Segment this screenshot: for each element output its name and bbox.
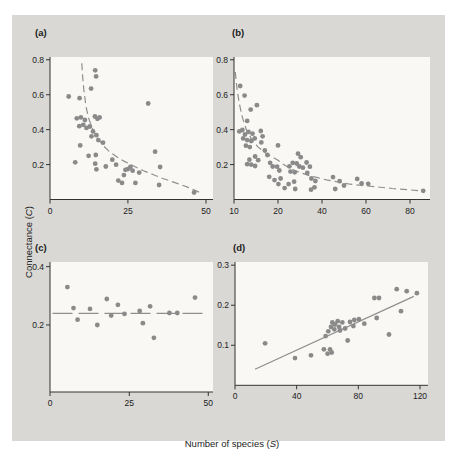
data-point — [338, 328, 343, 333]
data-point — [366, 181, 371, 186]
y-tick-label: 0.2 — [32, 319, 44, 329]
data-point — [193, 295, 198, 300]
data-point — [329, 350, 334, 355]
data-point — [75, 317, 80, 322]
data-point — [343, 326, 348, 331]
data-point — [146, 101, 151, 106]
panel-label-b: (b) — [232, 27, 244, 38]
data-point — [93, 161, 98, 166]
data-point — [359, 181, 364, 186]
data-point — [277, 168, 282, 173]
x-tick-label: 40 — [292, 391, 302, 401]
data-point — [253, 154, 258, 159]
data-point — [356, 317, 361, 322]
data-point — [77, 96, 82, 101]
data-point — [252, 136, 257, 141]
data-point — [247, 145, 252, 150]
data-point — [323, 334, 328, 339]
data-point — [372, 296, 377, 301]
data-point — [293, 187, 298, 192]
data-point — [309, 353, 314, 358]
data-point — [137, 308, 142, 313]
panel-label-c: (c) — [35, 242, 47, 253]
data-point — [83, 118, 88, 123]
x-tick-label: 0 — [48, 398, 53, 408]
data-point — [342, 183, 347, 188]
data-point — [247, 157, 252, 162]
y-axis-title-suffix: ) — [23, 206, 34, 209]
y-tick-label: 0.6 — [32, 90, 44, 100]
data-point — [73, 160, 78, 165]
data-point — [245, 119, 250, 124]
y-tick-label: 0.2 — [216, 160, 228, 170]
data-point — [333, 187, 338, 192]
data-point — [97, 115, 102, 120]
data-point — [120, 181, 125, 186]
data-point — [374, 316, 379, 321]
data-point — [94, 167, 99, 172]
data-point — [141, 320, 146, 325]
data-point — [152, 335, 157, 340]
data-point — [89, 134, 94, 139]
data-point — [101, 140, 106, 145]
data-point — [304, 160, 309, 165]
data-point — [148, 303, 153, 308]
data-point — [153, 149, 158, 154]
plot-background — [50, 262, 213, 392]
data-point — [122, 173, 127, 178]
x-axis-title-suffix: ) — [276, 438, 279, 449]
data-point — [414, 291, 419, 296]
x-tick-label: 40 — [317, 206, 327, 216]
data-point — [91, 129, 96, 134]
x-tick-label: 10 — [229, 206, 239, 216]
data-point — [78, 143, 83, 148]
y-axis-title-variable: C — [23, 209, 34, 216]
data-point — [340, 320, 345, 325]
panel-b-scatter-plot: 0.20.40.60.81020406080 — [208, 50, 445, 221]
data-point — [167, 310, 172, 315]
data-point — [157, 183, 162, 188]
data-point — [421, 188, 426, 193]
data-point — [362, 321, 367, 326]
x-tick-label: 20 — [273, 206, 283, 216]
x-tick-label: 60 — [361, 206, 371, 216]
data-point — [292, 179, 297, 184]
data-point — [326, 329, 331, 334]
x-axis-title: Number of species (S) — [142, 438, 322, 449]
plot-background — [50, 57, 213, 200]
y-axis-title-prefix: Connectance ( — [23, 216, 34, 278]
data-point — [110, 157, 115, 162]
data-point — [305, 171, 310, 176]
data-point — [122, 311, 127, 316]
data-point — [331, 175, 336, 180]
data-point — [238, 84, 243, 89]
data-point — [355, 177, 360, 182]
data-point — [399, 309, 404, 314]
data-point — [351, 324, 356, 329]
y-axis-title: Connectance (C) — [23, 179, 35, 305]
data-point — [278, 176, 283, 181]
data-point — [282, 186, 287, 191]
y-tick-label: 0.4 — [32, 125, 44, 135]
panel-c-scatter-plot: 0.20.402550 — [24, 255, 228, 413]
y-tick-label: 0.8 — [32, 55, 44, 65]
y-tick-label: 0.3 — [217, 260, 229, 270]
data-point — [93, 68, 98, 73]
panel-label-d: (d) — [233, 242, 245, 253]
data-point — [263, 341, 268, 346]
data-point — [94, 133, 99, 138]
data-point — [309, 176, 314, 181]
panel-label-a: (a) — [35, 27, 47, 38]
data-point — [256, 158, 261, 163]
data-point — [86, 153, 91, 158]
data-point — [332, 327, 337, 332]
x-tick-label: 0 — [48, 206, 53, 216]
figure-page: (a) (b) (c) (d) 0.20.40.60.802550 0.20.4… — [0, 0, 451, 465]
data-point — [248, 107, 253, 112]
y-tick-label: 0.2 — [32, 160, 44, 170]
x-axis-title-prefix: Number of species ( — [185, 438, 270, 449]
data-point — [137, 170, 142, 175]
data-point — [158, 165, 163, 170]
data-point — [270, 164, 275, 169]
y-tick-label: 0.2 — [217, 300, 229, 310]
